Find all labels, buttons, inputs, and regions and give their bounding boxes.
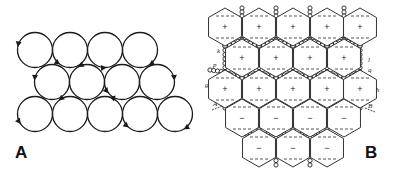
charge-sign: − — [273, 113, 278, 123]
edge-annotation: h — [376, 86, 380, 94]
charge-sign: − — [341, 113, 346, 123]
rotating-circle — [88, 96, 123, 132]
panel-a-circles — [15, 33, 192, 132]
edge-annotation: l — [368, 56, 370, 64]
charge-sign: + — [357, 22, 362, 32]
rotating-circle — [32, 65, 69, 100]
panel-label-b: B — [365, 143, 377, 163]
charge-sign: + — [324, 84, 329, 94]
charge-sign: + — [307, 53, 312, 63]
edge-annotation: p — [212, 61, 217, 69]
charge-sign: + — [222, 22, 227, 32]
charge-sign: − — [290, 143, 295, 153]
charge-sign: − — [307, 113, 312, 123]
charge-sign: + — [290, 22, 295, 32]
charge-sign: − — [324, 143, 329, 153]
charge-sign: + — [341, 53, 346, 63]
rotating-circle — [53, 95, 88, 132]
charge-sign: + — [357, 84, 362, 94]
charge-sign: + — [290, 84, 295, 94]
panel-b-hexagons: ++++++++++++++−−−−−−− — [209, 8, 377, 167]
charge-sign: + — [222, 84, 227, 94]
rotation-arrow-icon — [110, 96, 116, 102]
edge-annotation: k — [217, 47, 221, 55]
charge-sign: + — [256, 84, 261, 94]
rotating-circle — [158, 97, 193, 132]
rotating-circle — [16, 33, 53, 68]
rotation-arrow-icon — [101, 65, 107, 71]
rotation-arrow-icon — [171, 75, 177, 81]
rotation-arrow-icon — [32, 75, 38, 81]
rotating-circle — [15, 97, 52, 132]
rotating-circle — [123, 97, 158, 132]
rotating-circle — [103, 65, 140, 100]
edge-annotation: A — [212, 100, 218, 108]
charge-sign: + — [239, 53, 244, 63]
rotation-arrow-icon — [123, 122, 129, 128]
charge-sign: + — [324, 22, 329, 32]
rotation-arrow-icon — [16, 41, 22, 47]
rotating-circle — [123, 33, 158, 68]
edge-annotation: g — [205, 81, 209, 89]
edge-annotation: B — [368, 102, 373, 110]
panel-label-a: A — [15, 143, 27, 163]
charge-sign: + — [273, 53, 278, 63]
charge-sign: − — [256, 143, 261, 153]
rotating-circle — [140, 65, 177, 100]
rotating-circle — [53, 33, 88, 68]
diagram-canvas: ++++++++++++++−−−−−−− kpgAlqhB — [0, 0, 394, 174]
charge-sign: + — [256, 22, 261, 32]
edge-annotation: q — [368, 66, 372, 74]
charge-sign: − — [239, 113, 244, 123]
